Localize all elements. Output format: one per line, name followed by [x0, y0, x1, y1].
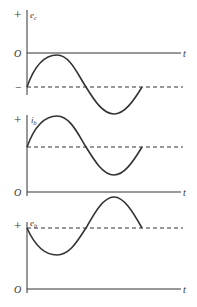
plus-label: + [14, 218, 21, 233]
plus-label: + [14, 112, 21, 127]
waveform-ib [27, 116, 142, 175]
panel-ec: + ec O − t [14, 7, 186, 114]
time-label: t [183, 284, 186, 295]
signal-label: ec [30, 10, 37, 21]
zero-label: O [14, 284, 21, 295]
time-label: t [183, 48, 186, 59]
signal-label: eb [30, 218, 37, 229]
signal-label: ib [31, 115, 37, 126]
panel-ib: + ib O t [14, 112, 186, 198]
waveform-eb [27, 197, 142, 255]
zero-label: O [14, 187, 21, 198]
waveform-diagram: + ec O − t + ib O t + eb O t [0, 0, 197, 307]
panel-eb: + eb O t [14, 197, 186, 295]
time-label: t [183, 187, 186, 198]
plus-label: + [14, 7, 21, 22]
waveform-ec [27, 55, 142, 114]
zero-label: O [14, 48, 21, 59]
minus-label: − [15, 81, 21, 93]
